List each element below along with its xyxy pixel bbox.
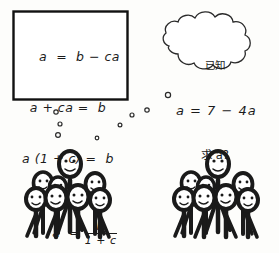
equation-line-3: a (1 + c) = b (16, 150, 126, 167)
fraction: b1 + c (85, 220, 117, 247)
equation-box-text: a = b − ca a + ca = b a (1 + c) = b a = … (16, 14, 126, 98)
fraction-denominator: 1 + c (85, 234, 117, 247)
thought-cloud-text: 已知 a = 7 − 4a 求 a? (176, 28, 254, 193)
equation-line-1: a = b − ca (16, 48, 126, 65)
fraction-numerator: b (85, 220, 117, 232)
cloud-line-question: 求 a? (176, 148, 254, 163)
thought-dot (165, 92, 170, 97)
equation-line-4-lhs: a = (52, 225, 80, 240)
cloud-line-equation: a = 7 − 4a (176, 103, 254, 118)
cloud-line-given: 已知 (176, 58, 254, 73)
cartoon-canvas: a = b − ca a + ca = b a (1 + c) = b a = … (0, 0, 279, 253)
thought-dot (145, 108, 149, 112)
thought-dot (130, 113, 134, 117)
equation-line-2: a + ca = b (16, 99, 126, 116)
equation-line-4: a = b1 + c (16, 203, 126, 253)
